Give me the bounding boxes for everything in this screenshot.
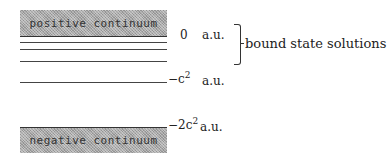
- bound-state-level: [20, 82, 167, 83]
- minus-2c2-unit: a.u.: [200, 120, 223, 134]
- bound-state-brace: [234, 24, 241, 65]
- minus-c2-base: −c: [168, 72, 185, 86]
- positive-continuum-label: positive continuum: [29, 17, 157, 30]
- minus-c2-exponent: 2: [185, 70, 191, 80]
- bound-state-level: [20, 61, 167, 62]
- negative-continuum-label: negative continuum: [29, 134, 157, 147]
- brace-tip: [240, 43, 244, 44]
- minus-2c2-exponent: 2: [192, 116, 198, 126]
- positive-continuum-band: positive continuum: [20, 10, 167, 37]
- minus-c2-unit: a.u.: [202, 74, 225, 88]
- negative-continuum-band: negative continuum: [20, 127, 167, 153]
- bound-state-level: [20, 49, 167, 50]
- bound-state-level: [20, 42, 167, 43]
- bound-state-label: bound state solutions: [245, 36, 386, 51]
- minus-c2-energy: −c2: [168, 70, 191, 86]
- minus-2c2-base: −2c: [168, 118, 192, 132]
- minus-2c2-energy: −2c2: [168, 116, 198, 132]
- zero-energy-value: 0: [180, 28, 188, 42]
- zero-energy-unit: a.u.: [202, 28, 225, 42]
